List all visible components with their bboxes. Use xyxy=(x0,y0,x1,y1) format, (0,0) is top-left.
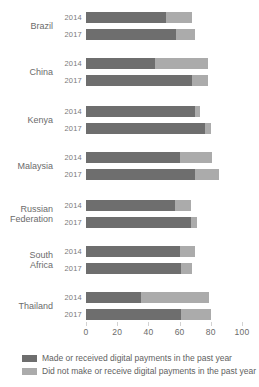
bar-segment-made-payments xyxy=(86,58,155,69)
bar-row: 2017 xyxy=(86,263,242,274)
bar-segment-made-payments xyxy=(86,217,191,228)
bar-segment-made-payments xyxy=(86,200,175,211)
stacked-bar xyxy=(86,12,192,23)
stacked-bar xyxy=(86,106,200,117)
country-label: Malaysia xyxy=(0,161,53,171)
axis-tick-mark xyxy=(86,322,87,326)
bar-segment-made-payments xyxy=(86,152,180,163)
axis-tick-mark xyxy=(148,322,149,326)
x-axis: 020406080100 xyxy=(86,322,242,352)
bar-row: 2014 xyxy=(86,200,242,211)
bar-segment-no-payments xyxy=(195,169,218,180)
year-label: 2014 xyxy=(65,200,83,211)
stacked-bar xyxy=(86,200,191,211)
bar-segment-made-payments xyxy=(86,29,176,40)
year-label: 2017 xyxy=(65,29,83,40)
year-label: 2014 xyxy=(65,152,83,163)
stacked-bar xyxy=(86,58,208,69)
legend-item: Made or received digital payments in the… xyxy=(22,352,258,364)
stacked-bar xyxy=(86,263,192,274)
bar-row: 2014 xyxy=(86,58,242,69)
bar-segment-no-payments xyxy=(192,75,208,86)
bar-row: 2017 xyxy=(86,217,242,228)
bar-segment-no-payments xyxy=(191,217,197,228)
legend-label: Did not make or receive digital payments… xyxy=(42,366,256,376)
bar-row: 2014 xyxy=(86,106,242,117)
bar-row: 2014 xyxy=(86,152,242,163)
bar-segment-made-payments xyxy=(86,12,166,23)
year-label: 2014 xyxy=(65,106,83,117)
bar-segment-no-payments xyxy=(155,58,208,69)
bar-segment-no-payments xyxy=(180,152,213,163)
bar-segment-no-payments xyxy=(181,309,211,320)
bar-row: 2017 xyxy=(86,123,242,134)
bar-row: 2017 xyxy=(86,29,242,40)
axis-tick-label: 0 xyxy=(84,327,89,337)
axis-tick-mark xyxy=(180,322,181,326)
bar-row: 2017 xyxy=(86,169,242,180)
stacked-bar xyxy=(86,29,195,40)
bar-segment-no-payments xyxy=(141,292,210,303)
axis-tick-mark xyxy=(211,322,212,326)
year-label: 2017 xyxy=(65,75,83,86)
year-label: 2017 xyxy=(65,123,83,134)
bar-row: 2014 xyxy=(86,292,242,303)
year-label: 2014 xyxy=(65,292,83,303)
axis-tick-mark xyxy=(117,322,118,326)
bar-segment-no-payments xyxy=(166,12,193,23)
year-label: 2014 xyxy=(65,12,83,23)
legend-swatch xyxy=(22,355,37,362)
plot-area: Brazil20142017China20142017Kenya20142017… xyxy=(86,0,242,322)
bar-row: 2014 xyxy=(86,12,242,23)
bar-row: 2017 xyxy=(86,309,242,320)
axis-tick-label: 100 xyxy=(235,327,250,337)
country-label: Brazil xyxy=(0,21,53,31)
bar-segment-made-payments xyxy=(86,246,180,257)
country-label: Russian Federation xyxy=(0,204,53,224)
stacked-bar xyxy=(86,152,212,163)
bar-segment-no-payments xyxy=(181,263,192,274)
year-label: 2017 xyxy=(65,169,83,180)
bar-segment-no-payments xyxy=(205,123,211,134)
legend-item: Did not make or receive digital payments… xyxy=(22,365,258,377)
country-label: China xyxy=(0,67,53,77)
chart-legend: Made or received digital payments in the… xyxy=(22,352,258,378)
bar-segment-made-payments xyxy=(86,106,195,117)
stacked-bar-chart: Brazil20142017China20142017Kenya20142017… xyxy=(0,0,259,387)
year-label: 2017 xyxy=(65,217,83,228)
year-label: 2017 xyxy=(65,309,83,320)
legend-swatch xyxy=(22,368,37,375)
bar-segment-made-payments xyxy=(86,123,205,134)
axis-tick-label: 80 xyxy=(206,327,216,337)
stacked-bar xyxy=(86,75,208,86)
country-label: South Africa xyxy=(0,250,53,270)
bar-segment-made-payments xyxy=(86,169,195,180)
axis-tick-label: 20 xyxy=(112,327,122,337)
country-label: Kenya xyxy=(0,115,53,125)
stacked-bar xyxy=(86,246,195,257)
country-label: Thailand xyxy=(0,301,53,311)
bar-segment-made-payments xyxy=(86,75,192,86)
bar-segment-no-payments xyxy=(195,106,200,117)
bar-row: 2014 xyxy=(86,246,242,257)
bar-segment-made-payments xyxy=(86,309,181,320)
stacked-bar xyxy=(86,292,209,303)
stacked-bar xyxy=(86,309,211,320)
bar-row: 2017 xyxy=(86,75,242,86)
stacked-bar xyxy=(86,217,197,228)
year-label: 2014 xyxy=(65,58,83,69)
legend-label: Made or received digital payments in the… xyxy=(42,353,232,363)
stacked-bar xyxy=(86,123,211,134)
bar-segment-no-payments xyxy=(176,29,195,40)
bar-segment-made-payments xyxy=(86,292,141,303)
axis-tick-mark xyxy=(242,322,243,326)
year-label: 2014 xyxy=(65,246,83,257)
bar-segment-made-payments xyxy=(86,263,181,274)
year-label: 2017 xyxy=(65,263,83,274)
bar-segment-no-payments xyxy=(180,246,196,257)
axis-tick-label: 60 xyxy=(175,327,185,337)
stacked-bar xyxy=(86,169,219,180)
bar-segment-no-payments xyxy=(175,200,191,211)
axis-tick-label: 40 xyxy=(143,327,153,337)
